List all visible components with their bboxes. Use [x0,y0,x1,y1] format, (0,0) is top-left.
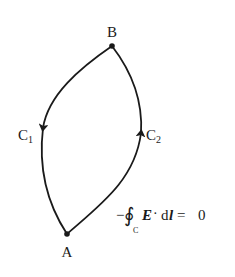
path-c2-upper [112,46,141,133]
point-b-label: B [107,24,117,40]
path-c2-label: C2 [146,127,161,145]
path-c1-lower [42,128,67,234]
equation-contour-integral: ∮ [124,204,134,227]
equation-d: d [161,207,169,223]
circulation-equation: − ∮ C E · d l = 0 [116,204,206,235]
point-a-label: A [62,244,73,260]
equation-dot: · [153,206,158,221]
point-b-dot [109,43,115,49]
point-a-dot [64,231,70,237]
equation-vector-l: l [169,207,174,223]
equation-vector-e: E [141,207,152,223]
closed-loop-diagram: B A C1 C2 − ∮ C E · d l = 0 [0,0,235,277]
equation-rhs: 0 [198,207,206,223]
equation-integral-subscript: C [133,226,138,235]
equation-equals: = [177,207,185,223]
path-c1-label: C1 [18,127,33,145]
path-c1-upper [43,46,112,128]
